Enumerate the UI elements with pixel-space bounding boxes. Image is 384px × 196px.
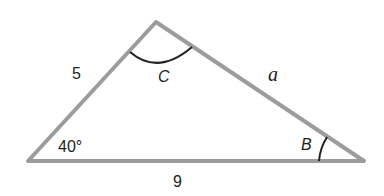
angle-c-arc — [130, 47, 192, 63]
triangle-figure — [0, 0, 384, 196]
angle-a-label: 40° — [58, 139, 82, 155]
side-ab-label: 9 — [173, 174, 182, 190]
side-cb-label: a — [268, 64, 278, 84]
side-ac-label: 5 — [72, 66, 81, 82]
angle-b-label: B — [301, 137, 312, 153]
angle-c-label: C — [158, 69, 170, 85]
angle-b-arc — [319, 137, 327, 161]
